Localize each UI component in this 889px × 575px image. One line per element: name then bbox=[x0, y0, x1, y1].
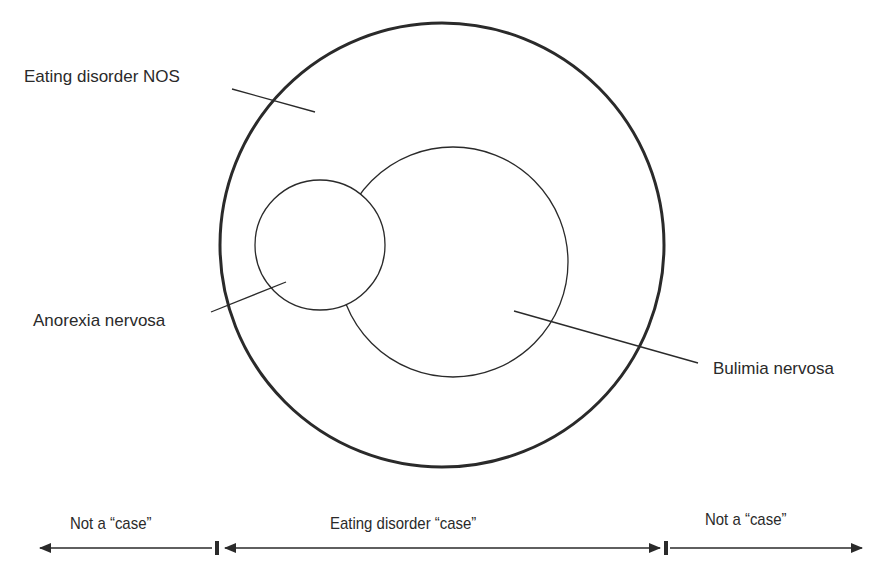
label-bulimia-nervosa: Bulimia nervosa bbox=[713, 359, 834, 379]
axis-label-left-not-a-case: Not a “case” bbox=[70, 514, 151, 534]
label-eating-disorder-nos: Eating disorder NOS bbox=[24, 67, 180, 87]
bulimia-leader-line bbox=[514, 311, 698, 363]
right-tick bbox=[664, 541, 668, 555]
anorexia-circle bbox=[255, 180, 385, 310]
axis-label-right-not-a-case: Not a “case” bbox=[705, 510, 786, 530]
left-tick bbox=[215, 541, 219, 555]
anorexia-leader-line bbox=[211, 282, 286, 312]
label-anorexia-nervosa: Anorexia nervosa bbox=[33, 311, 165, 331]
axis-label-eating-disorder-case: Eating disorder “case” bbox=[330, 514, 476, 534]
nos-leader-line bbox=[232, 89, 315, 112]
